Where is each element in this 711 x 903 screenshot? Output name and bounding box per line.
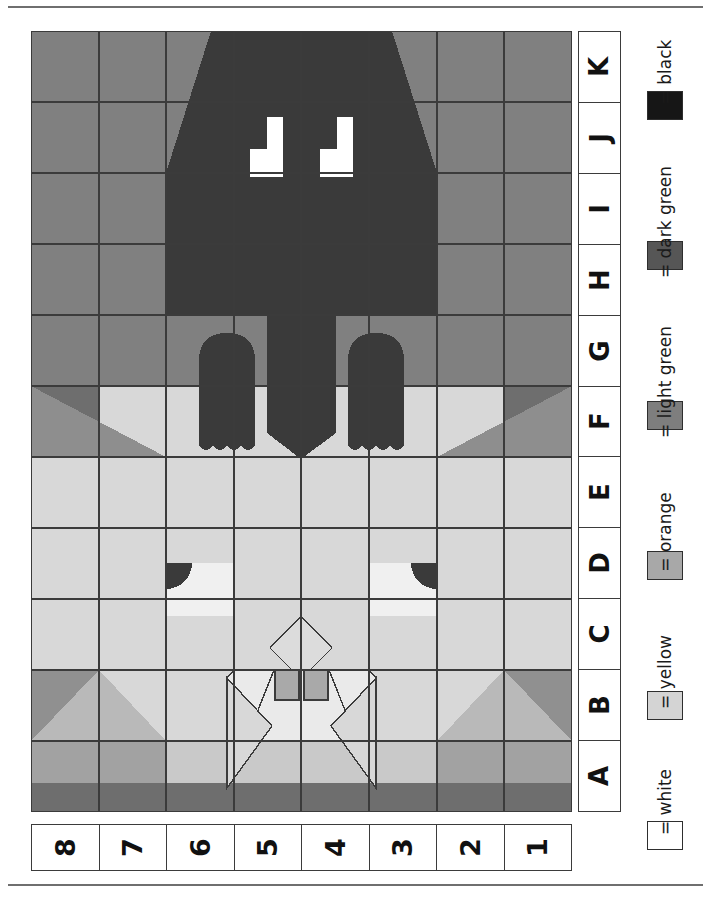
cat-paw-left <box>199 333 255 450</box>
row-label-1: 1 <box>505 825 572 870</box>
column-letter-strip: K J I H G F E D C B A <box>578 31 621 812</box>
legend-item-black: = black <box>630 91 700 120</box>
row-label-6: 6 <box>167 825 235 870</box>
legend-item-orange: = orange <box>630 551 700 580</box>
row-label-8: 8 <box>32 825 100 870</box>
legend-label-white: = white <box>655 769 675 835</box>
bottom-rule <box>8 884 703 886</box>
column-label-i: I <box>579 174 620 245</box>
column-label-f: F <box>579 387 620 458</box>
top-rule <box>8 6 703 8</box>
row-number-strip: 8 7 6 5 4 3 2 1 <box>31 824 572 871</box>
row-label-3: 3 <box>370 825 438 870</box>
column-label-b: B <box>579 670 620 741</box>
legend-item-light-green: = light green <box>630 401 700 430</box>
column-label-a: A <box>579 741 620 811</box>
legend-item-yellow: = yellow <box>630 691 700 720</box>
legend-item-dark-green: = dark green <box>630 241 700 270</box>
column-label-h: H <box>579 245 620 316</box>
column-label-k: K <box>579 32 620 103</box>
column-label-d: D <box>579 528 620 599</box>
legend-label-light-green: = light green <box>655 326 675 438</box>
row-label-5: 5 <box>235 825 303 870</box>
column-label-j: J <box>579 103 620 174</box>
picture-grid <box>31 31 572 812</box>
cat-paw-right <box>348 333 404 450</box>
legend-item-white: = white <box>630 821 700 850</box>
legend-label-dark-green: = dark green <box>655 166 675 278</box>
color-legend: = black = dark green = light green = ora… <box>630 31 700 831</box>
column-label-e: E <box>579 457 620 528</box>
legend-label-yellow: = yellow <box>655 635 675 709</box>
row-label-4: 4 <box>302 825 370 870</box>
legend-label-black: = black <box>655 40 675 105</box>
row-label-7: 7 <box>100 825 168 870</box>
column-label-g: G <box>579 316 620 387</box>
column-label-c: C <box>579 599 620 670</box>
row-label-2: 2 <box>437 825 505 870</box>
legend-label-orange: = orange <box>655 492 675 571</box>
